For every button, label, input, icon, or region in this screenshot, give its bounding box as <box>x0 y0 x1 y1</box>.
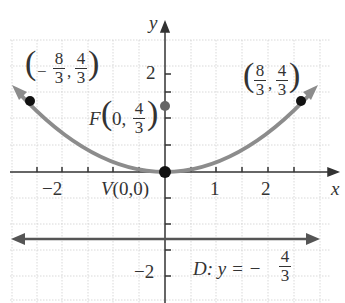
y-axis <box>161 22 171 303</box>
tick-label-1: 1 <box>210 178 220 200</box>
vertex-point <box>159 166 171 178</box>
ytick-label-m2: −2 <box>134 261 154 283</box>
ytick-label-2: 2 <box>146 62 156 84</box>
y-axis-label: y <box>149 12 157 34</box>
tick-label-2: 2 <box>261 178 271 200</box>
point-left <box>25 96 35 106</box>
x-axis-label: x <box>331 178 339 200</box>
vertex-label: V(0,0) <box>101 178 149 200</box>
focus-point <box>160 101 170 111</box>
tick-label-m2: −2 <box>42 178 62 200</box>
graph-canvas <box>0 0 345 303</box>
point-right <box>296 96 306 106</box>
